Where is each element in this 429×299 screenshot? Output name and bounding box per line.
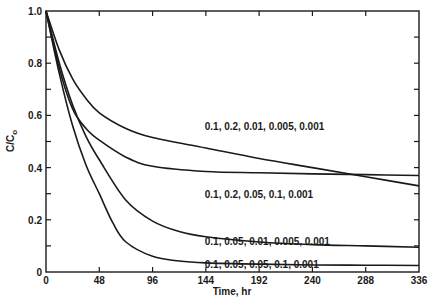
x-axis-title: Time, hr xyxy=(213,286,252,297)
x-tick-label: 336 xyxy=(411,275,428,286)
y-tick-label: 0.2 xyxy=(28,215,42,226)
x-tick-label: 48 xyxy=(94,275,106,286)
y-tick-label: 0.8 xyxy=(28,58,42,69)
series-label-3: 0.1, 0.05, 0.01, 0.005, 0.001 xyxy=(205,236,331,247)
y-axis-title: C/Co xyxy=(5,130,19,152)
y-tick-label: 1.0 xyxy=(28,6,42,17)
x-tick-label: 144 xyxy=(198,275,215,286)
series-line-1 xyxy=(46,11,419,186)
x-tick-label: 240 xyxy=(304,275,321,286)
series-label-2: 0.1, 0.2, 0.05, 0.1, 0.001 xyxy=(205,189,314,200)
series-label-4: 0.1, 0.05, 0.05, 0.1, 0.001 xyxy=(205,259,319,270)
y-tick-label: 0 xyxy=(36,267,42,278)
series-line-2 xyxy=(46,11,419,175)
series-label-1: 0.1, 0.2, 0.01, 0.005, 0.001 xyxy=(205,121,325,132)
x-tick-label: 0 xyxy=(43,275,49,286)
series-labels: 0.1, 0.2, 0.01, 0.005, 0.0010.1, 0.2, 0.… xyxy=(205,121,331,270)
x-tick-label: 96 xyxy=(147,275,159,286)
series-line-4 xyxy=(46,11,419,265)
y-tick-label: 0.6 xyxy=(28,110,42,121)
x-tick-label: 288 xyxy=(357,275,374,286)
line-chart: 04896144192240288336 00.20.40.60.81.0 0.… xyxy=(0,0,429,299)
y-tick-label: 0.4 xyxy=(28,163,42,174)
series-lines xyxy=(46,11,419,265)
x-tick-label: 192 xyxy=(251,275,268,286)
